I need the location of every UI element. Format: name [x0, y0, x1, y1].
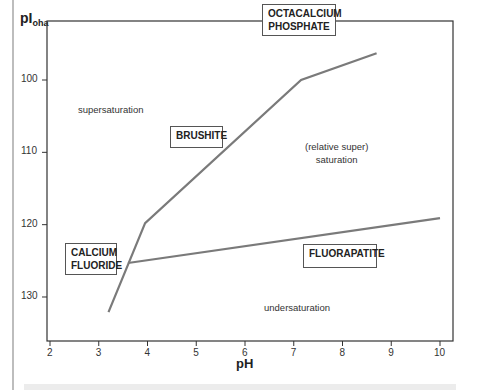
x-tick-label: 7	[291, 347, 297, 358]
x-axis-label: pH	[236, 356, 253, 371]
undersaturation-label: undersaturation	[264, 301, 330, 314]
supersaturation-label: supersaturation	[78, 103, 143, 116]
fluorapatite-curve	[128, 218, 440, 263]
x-axis-ticks	[50, 341, 440, 346]
series-layer	[109, 53, 441, 312]
relative-supersaturation-label: (relative super) saturation	[305, 140, 368, 166]
x-tick-label: 9	[388, 347, 394, 358]
y-tick-label: 110	[21, 145, 37, 156]
x-tick-label: 5	[193, 347, 199, 358]
octacalcium-phosphate-label: OCTACALCIUM PHOSPHATE	[262, 4, 336, 36]
fluorapatite-label: FLUORAPATITE	[303, 244, 377, 268]
calcium-line1: CALCIUM	[71, 246, 111, 259]
y-tick-label: 120	[21, 218, 38, 229]
calcium-line2: FLUORIDE	[71, 259, 111, 272]
solubility-curve-main	[109, 53, 377, 312]
octacalcium-line2: PHOSPHATE	[268, 20, 330, 33]
y-axis-ticks	[42, 80, 47, 297]
brushite-label: BRUSHITE	[170, 126, 223, 148]
octacalcium-line1: OCTACALCIUM	[268, 7, 330, 20]
x-tick-label: 2	[47, 347, 53, 358]
x-tick-label: 4	[145, 347, 151, 358]
chart-plot	[0, 0, 477, 390]
y-tick-label: 130	[21, 290, 38, 301]
x-tick-label: 8	[340, 347, 346, 358]
calcium-fluoride-label: CALCIUM FLUORIDE	[65, 243, 117, 275]
x-tick-label: 10	[434, 347, 445, 358]
plot-frame	[47, 21, 453, 341]
x-tick-label: 3	[96, 347, 102, 358]
brushite-text: BRUSHITE	[176, 129, 217, 142]
y-tick-label: 100	[21, 73, 38, 84]
relative-line2: saturation	[305, 153, 368, 166]
relative-line1: (relative super)	[305, 140, 368, 153]
fluorapatite-text: FLUORAPATITE	[309, 247, 371, 260]
